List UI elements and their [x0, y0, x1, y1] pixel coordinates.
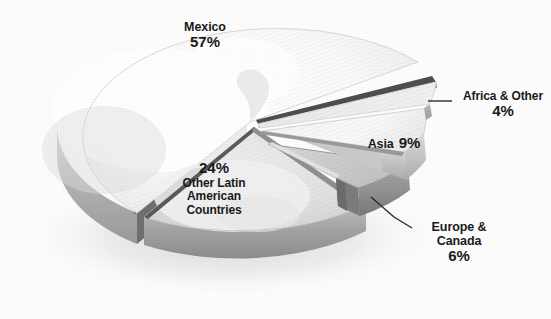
- slice-label-europe-percent: 6%: [414, 248, 504, 265]
- slice-label-europe-canada: Europe & Canada 6%: [414, 220, 504, 265]
- slice-label-asia-percent: 9%: [399, 134, 421, 151]
- slice-label-other-latin-american-countries: 24% Other Latin American Countries: [148, 160, 280, 217]
- slice-label-olac-line1: Other Latin: [148, 177, 280, 190]
- slice-label-olac-percent: 24%: [148, 160, 280, 177]
- slice-label-europe-line2: Canada: [414, 234, 504, 248]
- slice-label-olac-line2: American: [148, 190, 280, 203]
- slice-label-europe-line1: Europe &: [414, 220, 504, 234]
- slice-label-africa-other: Africa & Other 4%: [455, 90, 551, 120]
- slice-label-mexico: Mexico 57%: [150, 20, 260, 51]
- slice-label-africa-percent: 4%: [455, 103, 551, 120]
- slice-label-mexico-percent: 57%: [150, 34, 260, 51]
- slice-label-asia: Asia9%: [344, 134, 444, 152]
- slice-label-asia-name: Asia: [368, 137, 394, 151]
- slice-label-olac-line3: Countries: [148, 204, 280, 217]
- slice-label-africa-name: Africa & Other: [455, 90, 551, 103]
- slice-label-mexico-name: Mexico: [150, 20, 260, 34]
- pie-chart-figure: Mexico 57% 24% Other Latin American Coun…: [0, 0, 551, 319]
